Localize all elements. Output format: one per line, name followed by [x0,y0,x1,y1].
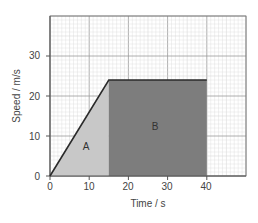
x-tick-0: 0 [47,181,53,192]
speed-time-graph: A B 0 10 20 30 40 0 10 20 30 Time / s Sp… [0,0,258,223]
y-tick-20: 20 [29,91,41,102]
x-axis-title: Time / s [130,198,165,209]
region-b-label: B [152,121,159,132]
x-tick-30: 30 [161,181,173,192]
y-tick-30: 30 [29,50,41,61]
x-tick-20: 20 [122,181,134,192]
y-tick-0: 0 [34,171,40,182]
region-a-label: A [83,141,90,152]
y-axis-title: Speed / m/s [11,69,22,122]
x-tick-40: 40 [200,181,212,192]
y-tick-10: 10 [29,131,41,142]
x-tick-10: 10 [83,181,95,192]
